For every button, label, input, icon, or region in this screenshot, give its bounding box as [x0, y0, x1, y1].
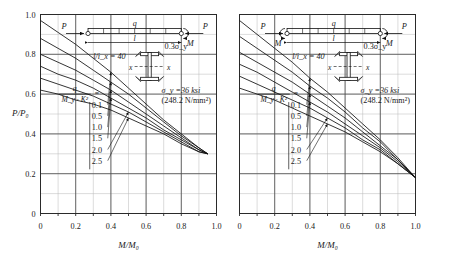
x-tick-label: 0.8 — [176, 222, 186, 231]
y-tick-label: 1.0 — [25, 11, 35, 20]
x-tick-label: 0.6 — [141, 222, 151, 231]
flange-bottom — [141, 77, 159, 80]
legend-title-numerator: q — [272, 84, 276, 93]
slenderness-ratio-label: l/i_x = 40 — [292, 52, 324, 61]
y-tick-label: 0.8 — [25, 50, 35, 59]
x-tick-label: 0.8 — [375, 222, 385, 231]
end-moment-label-left: M — [274, 39, 283, 48]
legend-label-0.1: 0.1 — [291, 101, 301, 110]
legend-label-1.0: 1.0 — [291, 123, 301, 132]
x-tick-label: 0.4 — [106, 222, 116, 231]
yield-stress-ksi-label: σ_y =36 ksi — [361, 86, 400, 95]
x-tick-label: 1.0 — [410, 222, 420, 231]
legend-label-2.5: 2.5 — [92, 157, 102, 166]
residual-stress-label: 0.3σ_y — [165, 42, 189, 51]
y-tick-label: 0.6 — [25, 90, 35, 99]
axis-label-x-left: x — [327, 63, 332, 72]
support-pin-left — [86, 31, 90, 35]
axis-label-x-left: x — [128, 63, 133, 72]
residual-stress-label: 0.3σ_y — [364, 42, 388, 51]
x-tick-label: 0 — [237, 222, 241, 231]
axial-load-label-left: P — [60, 22, 66, 31]
legend-label-1.0: 1.0 — [92, 123, 102, 132]
legend-label-2.0: 2.0 — [291, 146, 301, 155]
figure-root: 00.20.40.60.81.0qM_y · K²=0.10.51.01.52.… — [0, 0, 457, 258]
distributed-load-label: q — [133, 19, 137, 28]
distributed-load-label: q — [332, 19, 336, 28]
legend-label-0.5: 0.5 — [92, 112, 102, 121]
plot-panel-left: 00.20.40.60.81.0qM_y · K²=0.10.51.01.52.… — [38, 15, 221, 231]
legend-label-1.5: 1.5 — [291, 134, 301, 143]
legend-title-numerator: q — [73, 84, 77, 93]
axial-load-label-right: P — [202, 22, 208, 31]
legend-title-denominator: M_y · K² — [259, 95, 287, 104]
x-tick-label: 0.4 — [305, 222, 315, 231]
y-axis-label: P/P₀ — [11, 108, 29, 118]
axial-load-label-left: P — [259, 22, 265, 31]
legend-label-2.5: 2.5 — [291, 157, 301, 166]
x-tick-label: 0.2 — [71, 222, 81, 231]
yield-stress-ksi-label: σ_y =36 ksi — [162, 86, 201, 95]
legend-label-0.5: 0.5 — [291, 112, 301, 121]
legend-label-2.0: 2.0 — [92, 146, 102, 155]
y-tick-label: 0.2 — [25, 170, 35, 179]
x-tick-labels-right: 00.20.40.60.81.0 — [237, 222, 420, 231]
legend-equals-sign: = — [95, 89, 99, 98]
legend-equals-sign: = — [294, 89, 298, 98]
legend-label-1.5: 1.5 — [92, 134, 102, 143]
slenderness-ratio-label: l/i_x = 40 — [93, 52, 125, 61]
legend-label-0.1: 0.1 — [92, 101, 102, 110]
axial-load-label-right: P — [401, 22, 407, 31]
x-tick-label: 0 — [38, 222, 42, 231]
x-axis-label-left: M/M₀ — [117, 240, 139, 250]
legend-title-denominator: M_y · K² — [60, 95, 88, 104]
y-tick-label: 0 — [31, 210, 35, 219]
y-tick-label: 0.4 — [25, 130, 35, 139]
x-tick-labels-left: 00.20.40.60.81.0 — [38, 222, 221, 231]
support-pin-right — [179, 31, 183, 35]
yield-stress-si-label: (248.2 N/mm²) — [361, 96, 411, 105]
support-pin-left — [285, 31, 289, 35]
x-tick-label: 0.6 — [340, 222, 350, 231]
beam-column-interaction-figure: 00.20.40.60.81.0qM_y · K²=0.10.51.01.52.… — [0, 0, 457, 258]
axis-label-x-right: x — [365, 63, 370, 72]
x-tick-label: 1.0 — [211, 222, 221, 231]
axis-label-x-right: x — [166, 63, 171, 72]
plot-panel-right: 00.20.40.60.81.0qM_y · K²=0.10.51.01.52.… — [237, 15, 420, 231]
x-tick-label: 0.2 — [270, 222, 280, 231]
yield-stress-si-label: (248.2 N/mm²) — [162, 96, 212, 105]
flange-bottom — [340, 77, 358, 80]
x-axis-label-right: M/M₀ — [316, 240, 338, 250]
support-pin-right — [378, 31, 382, 35]
